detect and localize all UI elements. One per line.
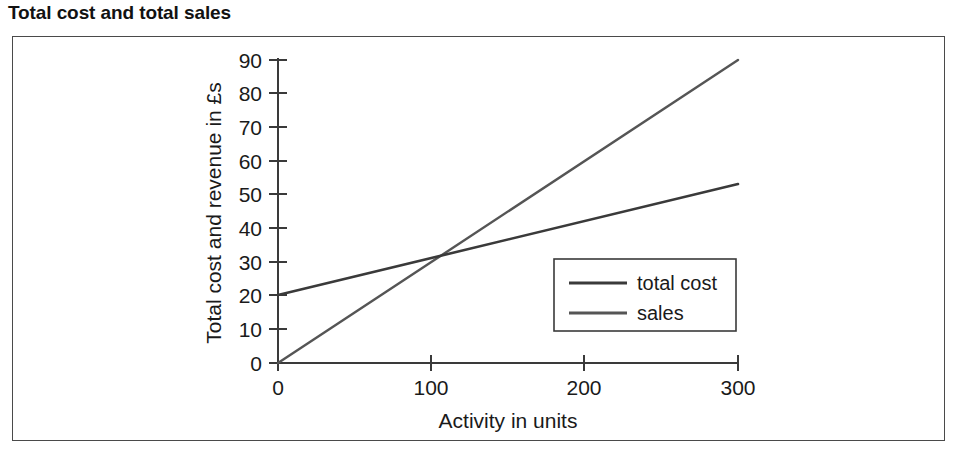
y-tick-label: 70 xyxy=(239,116,262,139)
line-chart: 90 80 70 60 50 40 30 20 10 0 Total cost … xyxy=(13,37,943,439)
y-tick-label: 60 xyxy=(239,150,262,173)
y-tick-label: 90 xyxy=(239,49,262,72)
y-axis: 90 80 70 60 50 40 30 20 10 0 Total cost … xyxy=(202,49,287,375)
chart-frame: 90 80 70 60 50 40 30 20 10 0 Total cost … xyxy=(12,36,945,441)
y-axis-title: Total cost and revenue in £s xyxy=(202,82,225,344)
x-axis-title: Activity in units xyxy=(439,409,578,432)
legend-label-sales: sales xyxy=(637,302,684,324)
legend-label-total-cost: total cost xyxy=(637,272,717,294)
y-tick-label: 80 xyxy=(239,82,262,105)
chart-figure: Total cost and total sales xyxy=(0,0,953,457)
chart-legend: total cost sales xyxy=(554,259,736,331)
y-tick-label: 30 xyxy=(239,251,262,274)
y-tick-label: 10 xyxy=(239,318,262,341)
x-tick-label: 100 xyxy=(413,376,448,399)
y-tick-label: 40 xyxy=(239,217,262,240)
y-tick-label: 20 xyxy=(239,284,262,307)
x-tick-label: 200 xyxy=(566,376,601,399)
y-tick-label: 50 xyxy=(239,183,262,206)
x-tick-label: 300 xyxy=(720,376,755,399)
x-axis: 0 100 200 300 Activity in units xyxy=(272,355,755,432)
x-tick-label: 0 xyxy=(272,376,284,399)
page-title: Total cost and total sales xyxy=(8,2,231,24)
y-tick-label: 0 xyxy=(250,352,262,375)
